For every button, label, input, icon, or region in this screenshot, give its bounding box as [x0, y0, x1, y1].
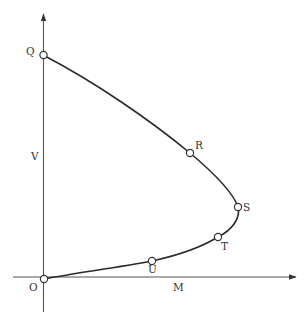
point-o — [40, 275, 47, 282]
label-o: O — [29, 281, 38, 293]
diagram-canvas: Q R S T U O V M — [0, 0, 308, 330]
label-v-axis: V — [30, 150, 39, 162]
label-t: T — [221, 240, 228, 252]
point-r — [186, 149, 193, 156]
label-r: R — [195, 139, 204, 151]
point-s — [234, 203, 241, 210]
curve-qrstuo — [43, 55, 239, 279]
label-m-axis: M — [173, 281, 184, 293]
label-s: S — [243, 201, 250, 213]
point-q — [40, 51, 47, 58]
label-u: U — [148, 263, 157, 275]
label-q: Q — [26, 45, 35, 57]
